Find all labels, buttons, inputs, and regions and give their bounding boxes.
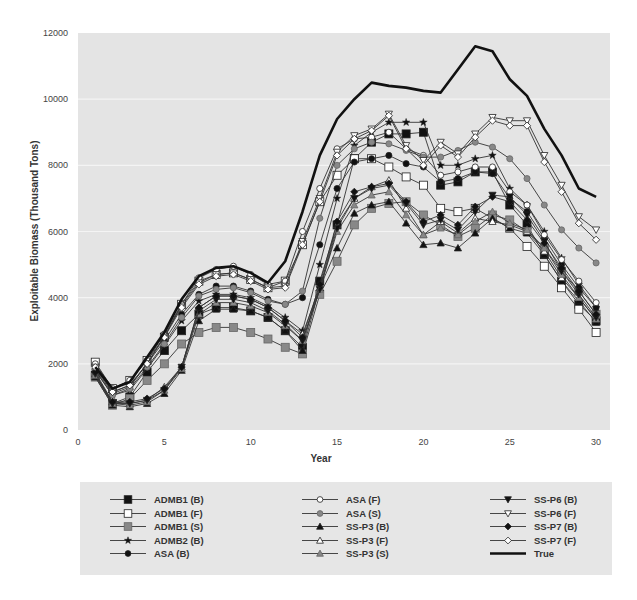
triangle-down-marker-icon: [490, 493, 526, 506]
legend-label: SS-P3 (F): [346, 535, 388, 546]
legend-item: ADMB1 (F): [110, 507, 204, 520]
y-axis-title: Exploitable Biomass (Thousand Tons): [29, 141, 40, 322]
y-tick-label: 4000: [48, 293, 68, 303]
legend-item: SS-P3 (F): [302, 534, 389, 547]
legend-label: ADMB2 (B): [154, 535, 204, 546]
star-marker-icon: [110, 534, 146, 547]
y-tick-label: 0: [63, 425, 68, 435]
legend-label: SS-P7 (B): [534, 521, 577, 532]
y-tick-label: 10000: [43, 94, 68, 104]
circle-marker-icon: [302, 507, 338, 520]
x-tick-label: 0: [75, 437, 80, 447]
x-tick-label: 10: [246, 437, 256, 447]
diamond-marker-icon: [490, 520, 526, 533]
legend-item: SS-P6 (F): [490, 507, 577, 520]
legend-label: SS-P6 (B): [534, 494, 577, 505]
x-axis-title: Year: [310, 453, 331, 464]
legend-column-2: ASA (F)ASA (S)SS-P3 (B)SS-P3 (F)SS-P3 (S…: [302, 493, 389, 561]
legend-item: True: [490, 547, 577, 560]
x-tick-label: 25: [505, 437, 515, 447]
legend-item: SS-P3 (S): [302, 547, 389, 560]
legend: ADMB1 (B)ADMB1 (F)ADMB1 (S)ADMB2 (B)ASA …: [80, 482, 612, 575]
legend-label: ADMB1 (F): [154, 508, 203, 519]
legend-label: ASA (S): [346, 508, 381, 519]
triangle-down-marker-icon: [490, 507, 526, 520]
legend-label: ADMB1 (S): [154, 521, 203, 532]
y-tick-label: 6000: [48, 227, 68, 237]
triangle-up-marker-icon: [302, 534, 338, 547]
legend-item: ADMB1 (B): [110, 493, 204, 506]
legend-item: SS-P3 (B): [302, 520, 389, 533]
square-marker-icon: [110, 507, 146, 520]
legend-column-1: ADMB1 (B)ADMB1 (F)ADMB1 (S)ADMB2 (B)ASA …: [110, 493, 204, 561]
legend-label: SS-P7 (F): [534, 535, 576, 546]
legend-item: ASA (S): [302, 507, 389, 520]
biomass-line-chart: 020004000600080001000012000 051015202530…: [0, 0, 637, 480]
x-tick-label: 20: [418, 437, 428, 447]
y-tick-label: 2000: [48, 359, 68, 369]
legend-item: ADMB2 (B): [110, 534, 204, 547]
circle-marker-icon: [302, 493, 338, 506]
triangle-up-marker-icon: [302, 547, 338, 560]
x-tick-label: 5: [162, 437, 167, 447]
triangle-up-marker-icon: [302, 520, 338, 533]
y-tick-label: 12000: [43, 28, 68, 38]
square-marker-icon: [110, 493, 146, 506]
legend-label: ADMB1 (B): [154, 494, 204, 505]
line-marker-icon: [490, 547, 526, 560]
legend-item: ADMB1 (S): [110, 520, 204, 533]
legend-label: ASA (F): [346, 494, 380, 505]
x-tick-label: 30: [591, 437, 601, 447]
x-axis-ticks: 051015202530: [75, 437, 601, 447]
diamond-marker-icon: [490, 534, 526, 547]
legend-label: SS-P6 (F): [534, 508, 576, 519]
legend-label: True: [534, 548, 554, 559]
legend-label: ASA (B): [154, 548, 190, 559]
x-tick-label: 15: [332, 437, 342, 447]
legend-item: ASA (F): [302, 493, 389, 506]
legend-column-3: SS-P6 (B)SS-P6 (F)SS-P7 (B)SS-P7 (F)True: [490, 493, 577, 561]
legend-label: SS-P3 (S): [346, 548, 389, 559]
square-marker-icon: [110, 520, 146, 533]
legend-item: SS-P7 (B): [490, 520, 577, 533]
legend-item: SS-P6 (B): [490, 493, 577, 506]
y-tick-label: 8000: [48, 160, 68, 170]
legend-item: SS-P7 (F): [490, 534, 577, 547]
legend-label: SS-P3 (B): [346, 521, 389, 532]
y-axis-ticks: 020004000600080001000012000: [43, 28, 68, 435]
legend-item: ASA (B): [110, 547, 204, 560]
circle-marker-icon: [110, 547, 146, 560]
